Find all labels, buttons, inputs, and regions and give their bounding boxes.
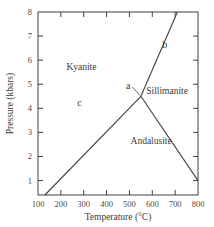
phase-boundary-line xyxy=(141,12,178,96)
x-tick-label: 500 xyxy=(123,199,136,209)
phase-boundaries xyxy=(45,12,198,195)
annotation-label-c: c xyxy=(77,97,82,108)
phase-diagram-chart: 10020030040050060070080012345678 Kyanite… xyxy=(0,0,214,227)
ticks: 10020030040050060070080012345678 xyxy=(28,7,205,209)
x-tick-label: 800 xyxy=(192,199,205,209)
plot-frame xyxy=(38,12,198,195)
annotation-pointer-a xyxy=(132,87,140,95)
region-label-andalusite: Andalusite xyxy=(131,136,172,146)
x-tick-label: 400 xyxy=(100,199,113,209)
labels: KyaniteSillimaniteAndalusiteabc xyxy=(66,39,188,146)
y-tick-label: 2 xyxy=(28,151,32,161)
x-axis-label: Temperature (°C) xyxy=(85,212,152,223)
y-tick-label: 6 xyxy=(28,55,32,65)
y-tick-label: 3 xyxy=(28,127,32,137)
x-tick-label: 600 xyxy=(146,199,159,209)
x-tick-label: 200 xyxy=(54,199,67,209)
x-tick-label: 700 xyxy=(169,199,182,209)
y-tick-label: 8 xyxy=(28,7,32,17)
axes xyxy=(38,12,198,195)
annotation-label-b: b xyxy=(162,39,167,50)
annotation-label-a: a xyxy=(126,80,131,91)
y-tick-label: 5 xyxy=(28,79,32,89)
x-tick-label: 100 xyxy=(32,199,45,209)
y-tick-label: 1 xyxy=(28,176,32,186)
y-tick-label: 4 xyxy=(28,103,33,113)
y-tick-label: 7 xyxy=(28,31,32,41)
region-label-sillimanite: Sillimanite xyxy=(146,86,188,96)
y-axis-label: Pressure (kbars) xyxy=(5,73,16,134)
phase-boundary-line xyxy=(45,96,141,195)
region-label-kyanite: Kyanite xyxy=(66,62,96,72)
x-tick-label: 300 xyxy=(77,199,90,209)
